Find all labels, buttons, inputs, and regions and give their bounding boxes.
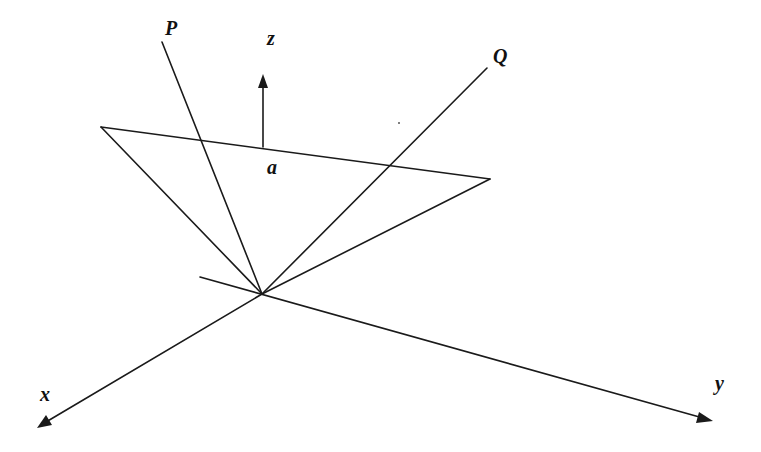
- label-z: z: [266, 27, 275, 49]
- y-axis-line: [200, 277, 703, 418]
- arrow-y-icon: [696, 412, 713, 423]
- x-axis-line: [46, 294, 262, 422]
- arrow-x-icon: [37, 415, 52, 428]
- ray-q: [262, 68, 487, 294]
- label-a: a: [267, 156, 277, 178]
- ray-p: [162, 42, 262, 294]
- triangle-left-edge: [101, 127, 262, 294]
- label-y: y: [713, 372, 724, 395]
- stray-dot: [398, 122, 400, 124]
- label-p: P: [164, 17, 178, 39]
- label-q: Q: [493, 45, 507, 67]
- triangle-right-edge: [262, 179, 490, 294]
- y-axis: [200, 277, 713, 423]
- triangle-plane: [101, 127, 490, 294]
- normal-vector-z: [258, 74, 268, 147]
- x-axis: [37, 294, 262, 428]
- 3d-geometry-diagram: P z Q a x y: [0, 0, 761, 452]
- arrow-up-icon: [258, 74, 268, 88]
- label-x: x: [39, 383, 50, 405]
- triangle-top-edge: [101, 127, 490, 179]
